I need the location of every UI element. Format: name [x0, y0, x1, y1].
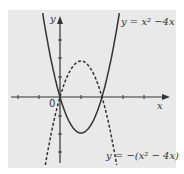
dashed-curve-label: y = −(x² − 4x): [106, 150, 179, 161]
graph-background: [8, 10, 176, 168]
y-axis-label: y: [50, 13, 56, 24]
solid-curve-label: y = x² −4x: [121, 16, 175, 27]
origin-label: 0: [49, 98, 55, 109]
x-axis-label: x: [157, 100, 163, 111]
